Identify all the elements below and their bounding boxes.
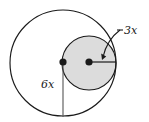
inner-center-dot: [85, 58, 92, 65]
figure-canvas: 3x 6x: [0, 0, 149, 122]
inner-radius-label: 3x: [124, 24, 138, 37]
geometry-figure: 3x 6x: [0, 0, 149, 122]
outer-diameter-label: 6x: [41, 78, 55, 91]
outer-center-dot: [59, 58, 66, 65]
